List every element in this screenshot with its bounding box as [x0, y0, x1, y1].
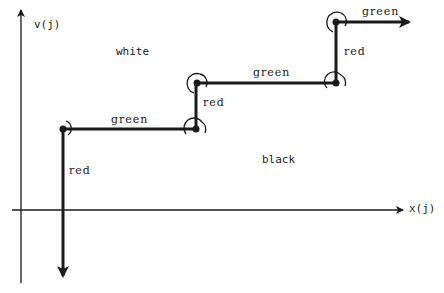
- segment-label-green-1: green: [111, 114, 148, 125]
- segment-label-green-2: green: [253, 67, 290, 78]
- segment-label-green-3: green: [362, 6, 399, 17]
- y-axis-label: v(j): [34, 19, 61, 30]
- x-axis-label: x(j): [409, 203, 436, 214]
- segment-label-red-3: red: [344, 46, 366, 57]
- staircase-path: [63, 22, 409, 276]
- region-label-upper: white: [116, 46, 149, 57]
- region-label-lower: black: [262, 154, 295, 165]
- staircase-diagram: [0, 0, 444, 293]
- segment-label-red-1: red: [69, 165, 91, 176]
- segment-label-red-2: red: [203, 97, 225, 108]
